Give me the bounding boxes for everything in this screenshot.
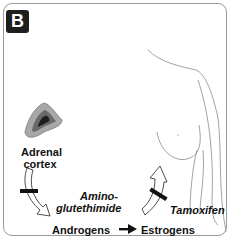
torso-shoulder-outline: [148, 50, 218, 118]
nipple-dot: [177, 134, 178, 135]
aminoglutethimide-line2: glutethimide: [56, 202, 118, 214]
aminoglutethimide-label: Amino- glutethimide: [56, 190, 118, 214]
tamoxifen-label: Tamoxifen: [170, 204, 225, 216]
adrenal-label-line1: Adrenal: [21, 146, 59, 158]
adrenal-gland-icon: [25, 103, 62, 137]
torso-lower-line-2: [200, 150, 203, 212]
breast-outline: [157, 125, 200, 160]
aminoglutethimide-line1: Amino-: [56, 190, 118, 202]
androgens-to-estrogens-arrow: [119, 224, 137, 234]
androgens-label: Androgens: [52, 224, 110, 236]
estrogens-label: Estrogens: [141, 224, 195, 236]
adrenal-label-line2: cortex: [21, 158, 59, 170]
aminoglutethimide-block-bar: [20, 189, 38, 193]
adrenal-cortex-label: Adrenal cortex: [21, 146, 59, 170]
